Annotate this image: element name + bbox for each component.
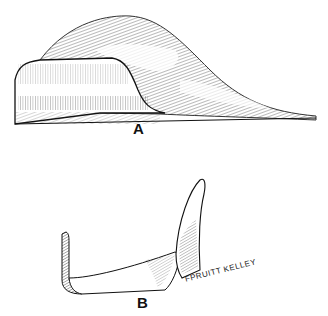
figure-b-drawing (0, 160, 328, 316)
figure-a-drawing (0, 0, 328, 160)
figure-b (0, 160, 328, 316)
panel-label-b: B (137, 294, 148, 311)
figure-a (0, 0, 328, 160)
panel-label-a: A (133, 120, 144, 137)
